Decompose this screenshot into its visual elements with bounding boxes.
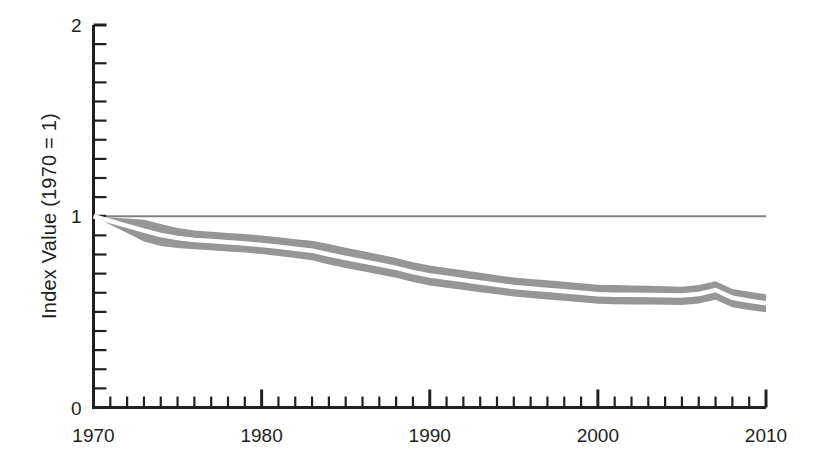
x-tick-label: 1970: [72, 425, 114, 446]
y-tick-label: 2: [71, 15, 82, 36]
x-axis-ticks: [94, 390, 767, 408]
y-axis-label-text: Index Value (1970 = 1): [38, 113, 60, 319]
y-axis-tick-labels: 012: [71, 15, 82, 419]
chart-container: Index Value (1970 = 1) 012 1970198019902…: [0, 0, 816, 469]
uncertainty-band: [94, 216, 767, 312]
x-axis-tick-labels: 19701980199020002010: [72, 425, 787, 446]
band-polygon: [94, 216, 767, 312]
y-tick-label: 1: [71, 206, 82, 227]
x-tick-label: 2000: [577, 425, 619, 446]
index-value-area-chart: Index Value (1970 = 1) 012 1970198019902…: [0, 0, 816, 469]
x-tick-label: 1980: [240, 425, 282, 446]
y-tick-label: 0: [71, 398, 82, 419]
x-tick-label: 1990: [409, 425, 451, 446]
y-axis-ticks: [94, 25, 107, 388]
x-tick-label: 2010: [745, 425, 787, 446]
y-axis-label: Index Value (1970 = 1): [38, 113, 60, 319]
